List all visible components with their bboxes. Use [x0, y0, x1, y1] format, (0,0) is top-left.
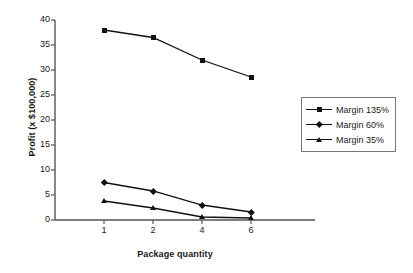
legend-marker-triangle-icon: [306, 134, 332, 145]
chart-figure: Profit (x $100,000) 0510152025303540 124…: [0, 0, 413, 273]
x-axis-tick-label: 6: [236, 225, 266, 235]
data-point-marker: [248, 215, 254, 220]
legend-item: Margin 135%: [306, 102, 389, 117]
legend-marker-square-icon: [306, 104, 332, 115]
legend-item: Margin 60%: [306, 117, 389, 132]
x-axis-label: Package quantity: [55, 249, 295, 259]
x-axis-tick-label: 1: [89, 225, 119, 235]
x-axis-tick-label: 4: [187, 225, 217, 235]
data-point-marker: [199, 214, 205, 219]
legend-item-label: Margin 35%: [336, 135, 384, 145]
data-point-marker: [200, 58, 205, 63]
data-point-marker: [150, 205, 156, 210]
legend-item-label: Margin 60%: [336, 120, 384, 130]
legend-item: Margin 35%: [306, 132, 389, 147]
data-point-marker: [249, 75, 254, 80]
data-point-marker: [102, 28, 107, 33]
chart-legend: Margin 135% Margin 60% Margin 35%: [301, 97, 396, 152]
data-point-marker: [151, 35, 156, 40]
legend-item-label: Margin 135%: [336, 105, 389, 115]
legend-marker-diamond-icon: [306, 119, 332, 130]
data-point-marker: [101, 198, 107, 203]
x-axis-tick-label: 2: [138, 225, 168, 235]
